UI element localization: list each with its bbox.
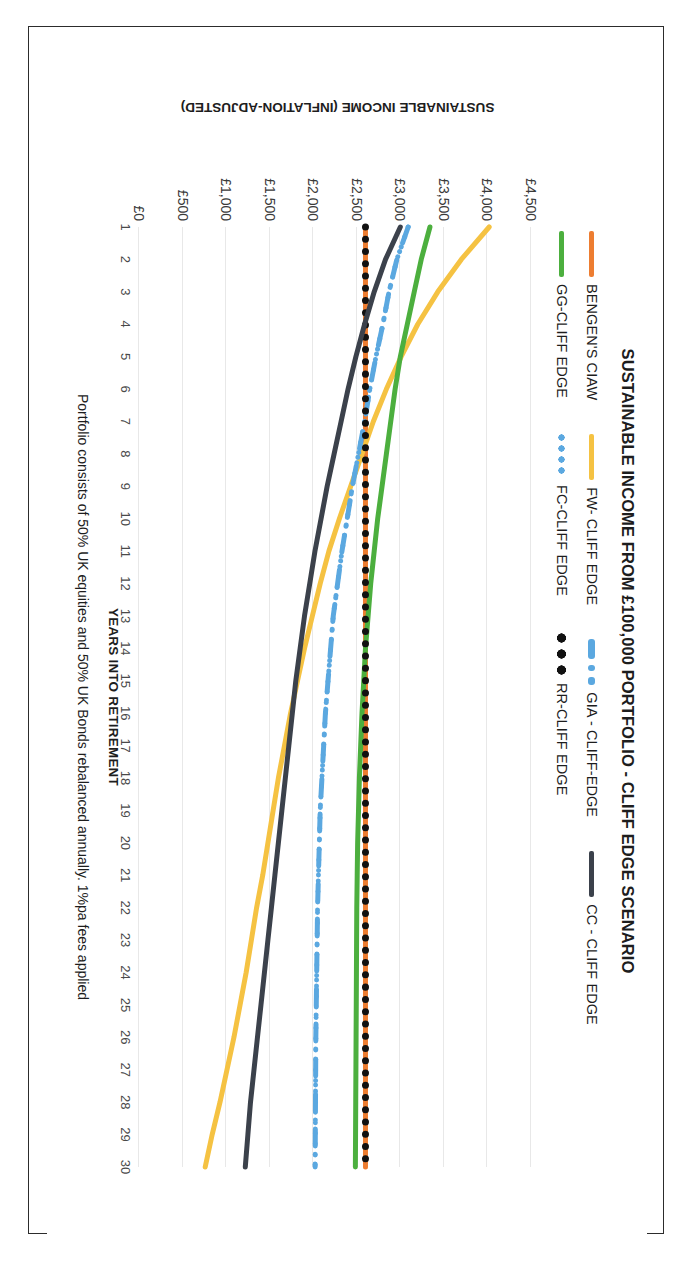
legend-swatch-gg-cliff-edge bbox=[554, 231, 570, 277]
legend-item-cc-cliff-edge[interactable]: CC - CLIFF EDGE bbox=[579, 851, 605, 1025]
legend-item-gg-cliff-edge[interactable]: GG-CLIFF EDGE bbox=[549, 231, 575, 398]
y-axis-title-holder: SUSTAINABLE INCOME (INFLATION-ADJUSTED) bbox=[139, 93, 531, 121]
chart-title: SUSTAINABLE INCOME FROM £100,000 PORTFOL… bbox=[618, 75, 637, 1247]
y-axis-title: SUSTAINABLE INCOME (INFLATION-ADJUSTED) bbox=[142, 100, 534, 115]
series-line-fw-cliff-edge bbox=[205, 227, 489, 1167]
legend-label-fc-cliff-edge: FC-CLIFF EDGE bbox=[554, 485, 570, 596]
y-tick-label: £1,000 bbox=[218, 135, 234, 221]
y-tick-label: £1,500 bbox=[262, 135, 278, 221]
scanned-page: SUSTAINABLE INCOME FROM £100,000 PORTFOL… bbox=[0, 0, 694, 1262]
plot-area: £4,500£4,000£3,500£3,000£2,500£2,000£1,5… bbox=[139, 227, 531, 1167]
legend-item-fc-cliff-edge[interactable]: FC-CLIFF EDGE bbox=[549, 432, 575, 596]
chart-canvas: SUSTAINABLE INCOME FROM £100,000 PORTFOL… bbox=[47, 75, 647, 1247]
legend-swatch-fc-cliff-edge bbox=[554, 432, 570, 478]
y-tick-label: £2,000 bbox=[305, 135, 321, 221]
series-line-cc-cliff-edge bbox=[245, 227, 400, 1167]
legend-swatch-cc-cliff-edge bbox=[584, 851, 600, 897]
y-tick-label: £3,500 bbox=[436, 135, 452, 221]
chart-paper-frame: SUSTAINABLE INCOME FROM £100,000 PORTFOL… bbox=[28, 26, 664, 1234]
legend-item-rr-cliff-edge[interactable]: RR-CLIFF EDGE bbox=[549, 630, 575, 795]
legend-row-1: BENGEN'S CIAW FW- CLIFF EDGE GIA - CLIFF… bbox=[579, 231, 605, 1111]
legend-swatch-bengens-ciaw bbox=[584, 231, 600, 277]
legend-swatch-gia-cliff-edge bbox=[584, 639, 600, 685]
x-axis-title: YEARS INTO RETIREMENT bbox=[106, 227, 121, 1167]
legend-item-bengens-ciaw[interactable]: BENGEN'S CIAW bbox=[579, 231, 605, 400]
legend-label-rr-cliff-edge: RR-CLIFF EDGE bbox=[554, 683, 570, 795]
legend-swatch-rr-cliff-edge bbox=[554, 630, 570, 676]
legend-label-bengens-ciaw: BENGEN'S CIAW bbox=[584, 284, 600, 400]
legend-item-fw-cliff-edge[interactable]: FW- CLIFF EDGE bbox=[579, 434, 605, 605]
y-tick-label: £4,000 bbox=[479, 135, 495, 221]
chart-legend: BENGEN'S CIAW FW- CLIFF EDGE GIA - CLIFF… bbox=[541, 231, 607, 1111]
legend-row-2: GG-CLIFF EDGE FC-CLIFF EDGE RR-CLIFF EDG… bbox=[549, 231, 575, 1111]
legend-swatch-fw-cliff-edge bbox=[584, 434, 600, 480]
legend-item-gia-cliff-edge[interactable]: GIA - CLIFF-EDGE bbox=[579, 639, 605, 817]
y-tick-label: £3,000 bbox=[392, 135, 408, 221]
y-tick-label: £2,500 bbox=[349, 135, 365, 221]
legend-label-cc-cliff-edge: CC - CLIFF EDGE bbox=[584, 904, 600, 1025]
legend-label-fw-cliff-edge: FW- CLIFF EDGE bbox=[584, 487, 600, 605]
y-tick-label: £500 bbox=[175, 135, 191, 221]
legend-label-gia-cliff-edge: GIA - CLIFF-EDGE bbox=[584, 692, 600, 817]
legend-label-gg-cliff-edge: GG-CLIFF EDGE bbox=[554, 284, 570, 398]
series-lines bbox=[139, 227, 531, 1167]
y-tick-label: £4,500 bbox=[523, 135, 539, 221]
y-tick-label: £0 bbox=[131, 135, 147, 221]
chart-footnote: Portfolio consists of 50% UK equities an… bbox=[75, 227, 91, 1167]
